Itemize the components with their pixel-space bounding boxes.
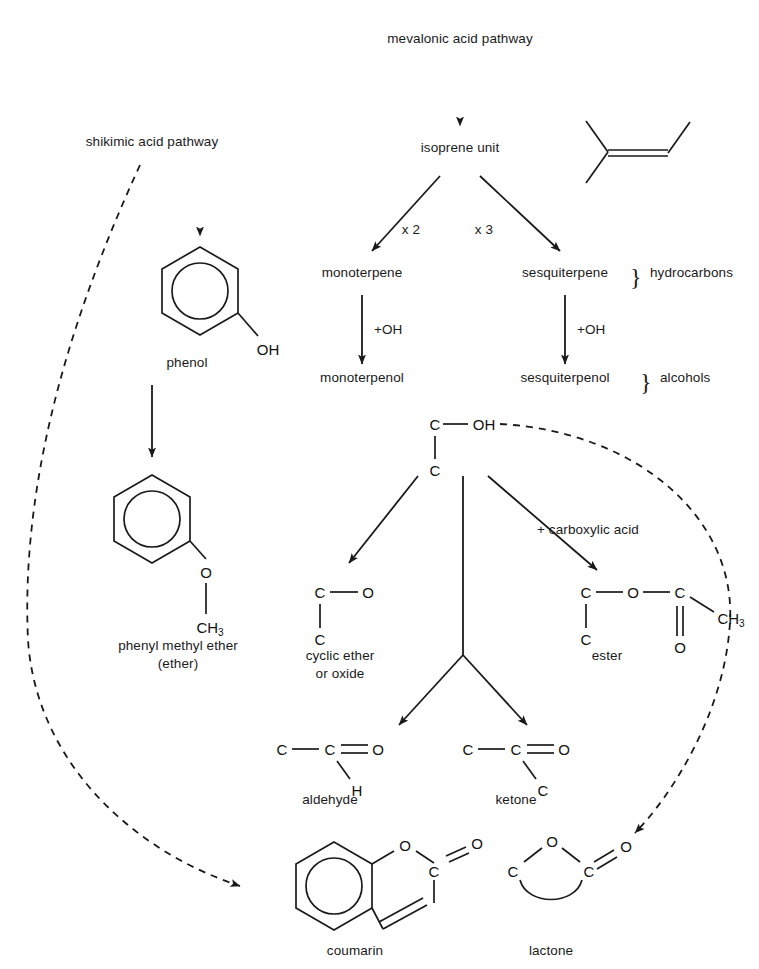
atom-coumarin-carbonyl-carbon: C (429, 863, 440, 880)
atom-ether-methyl: CH3 (196, 619, 223, 636)
atom-ester-carbonyl-oxygen: O (674, 639, 686, 656)
atom-cyclic-ether-oxygen: O (362, 584, 374, 601)
atom-ketone-carbon-3: C (538, 782, 549, 799)
dashed-path-hub-to-lactone (500, 424, 730, 833)
atom-aldehyde-oxygen: O (372, 741, 384, 758)
label-mevalonic-acid-pathway: mevalonic acid pathway (387, 31, 533, 48)
label-multiplier-x3: x 3 (475, 222, 493, 239)
atom-ester-methyl: CH3 (717, 610, 744, 627)
arrow-isoprene-to-monoterpene (372, 176, 440, 251)
phenol-ring (162, 247, 258, 336)
atom-ether-oxygen: O (200, 564, 212, 581)
label-sesquiterpenol: sesquiterpenol (520, 370, 609, 387)
atom-lactone-carbonyl-oxygen: O (620, 838, 632, 855)
label-ester: ester (592, 648, 623, 665)
pathway-diagram: mevalonic acid pathway isoprene unit shi… (0, 0, 759, 969)
label-aldehyde: aldehyde (302, 792, 358, 809)
atom-ester-bridge-oxygen: O (627, 584, 639, 601)
atom-lactone-ring-oxygen: O (546, 833, 558, 850)
label-ketone: ketone (495, 792, 536, 809)
ester-structure (586, 592, 714, 636)
atom-ketone-carbon-1: C (463, 741, 474, 758)
label-shikimic-acid-pathway: shikimic acid pathway (86, 134, 219, 151)
lactone-structure (520, 848, 617, 900)
atom-ketone-oxygen: O (558, 741, 570, 758)
phenyl-methyl-ether-ring (114, 475, 206, 614)
brace-alcohols-glyph: } (640, 369, 652, 396)
isoprene-structure (586, 121, 690, 183)
atom-lactone-carbon-right: C (584, 863, 595, 880)
atom-hub-carbon-top: C (430, 416, 441, 433)
atom-cyclic-ether-carbon-top: C (315, 584, 326, 601)
coumarin-structure (296, 842, 469, 930)
arrow-isoprene-to-sesquiterpene (480, 176, 560, 251)
label-phenyl-methyl-ether-subtitle: (ether) (158, 656, 198, 673)
label-phenyl-methyl-ether: phenyl methyl ether (118, 638, 238, 655)
atom-phenol-hydroxyl: OH (257, 341, 280, 358)
atom-lactone-carbon-left: C (508, 863, 519, 880)
label-monoterpenol: monoterpenol (320, 370, 404, 387)
brace-hydrocarbons-glyph: } (630, 264, 642, 291)
atom-cyclic-ether-carbon-bottom: C (315, 631, 326, 648)
label-lactone: lactone (529, 943, 573, 960)
atom-ester-carbon-below: C (581, 631, 592, 648)
label-coumarin: coumarin (327, 943, 383, 960)
arrow-hub-to-aldehyde-ketone (399, 476, 527, 725)
atom-hub-hydroxyl: OH (473, 416, 496, 433)
label-cyclic-ether-line2: or oxide (316, 666, 365, 683)
label-isoprene-unit: isoprene unit (421, 140, 500, 157)
cyclic-ether-structure (320, 592, 359, 633)
label-alcohols: alcohols (660, 370, 710, 387)
atom-hub-carbon-bottom: C (430, 462, 441, 479)
label-cyclic-ether-line1: cyclic ether (306, 648, 375, 665)
atom-ester-carbon-2: C (675, 584, 686, 601)
label-sesquiterpene: sesquiterpene (522, 265, 608, 282)
label-multiplier-x2: x 2 (402, 222, 420, 239)
label-plus-oh-right: +OH (577, 322, 605, 339)
atom-aldehyde-carbon-2: C (325, 741, 336, 758)
atom-aldehyde-carbon-1: C (277, 741, 288, 758)
atom-coumarin-carbonyl-oxygen: O (471, 835, 483, 852)
atom-coumarin-ring-oxygen: O (399, 837, 411, 854)
atom-ketone-carbon-2: C (511, 741, 522, 758)
arrow-hub-to-cyclic-ether (349, 476, 418, 563)
label-plus-oh-left: +OH (374, 322, 402, 339)
atom-ester-carbon-1: C (581, 584, 592, 601)
label-plus-carboxylic-acid: + carboxylic acid (537, 522, 639, 539)
dashed-path-shikimic-to-coumarin (27, 165, 240, 886)
label-monoterpene: monoterpene (322, 265, 403, 282)
label-hydrocarbons: hydrocarbons (650, 265, 733, 282)
atom-aldehyde-hydrogen: H (352, 782, 363, 799)
label-phenol: phenol (166, 355, 207, 372)
